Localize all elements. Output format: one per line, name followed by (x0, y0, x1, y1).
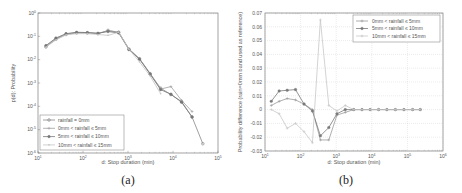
tick-label: 0 (259, 106, 262, 112)
tick-label: 105 (404, 153, 412, 159)
legend-entry: 0mm < rainfall ≤ 5mm (58, 125, 106, 131)
chart-a-xlabel: d: Stop duration (min) (102, 159, 155, 165)
chart-b-caption: (b) (339, 173, 353, 187)
legend-entry: 10mm < rainfall ≤ 15mm (372, 33, 426, 39)
chart-b-xlabel: d: Stop duration (min) (328, 159, 381, 165)
figure: 10110210310410510010-110-210-310-410-510… (0, 0, 462, 193)
legend-entry: 10mm < rainfall ≤ 15mm (58, 142, 112, 148)
tick-label: 105 (214, 155, 222, 161)
tick-label: 100 (28, 10, 36, 16)
tick-label: 10-3 (27, 80, 36, 86)
tick-label: 102 (79, 155, 87, 161)
tick-label: 104 (169, 155, 177, 161)
tick-label: -0.02 (251, 134, 263, 140)
tick-label: 101 (261, 153, 269, 159)
tick-label: 0.07 (252, 10, 262, 16)
tick-label: 10-2 (27, 56, 36, 62)
chart-a-caption: (a) (121, 173, 134, 187)
tick-label: 0.05 (252, 37, 262, 43)
chart-a: 10110210310410510010-110-210-310-410-510… (27, 10, 221, 161)
chart-b: 1011021031041051060.070.060.050.040.030.… (251, 10, 447, 159)
tick-label: 0.02 (252, 79, 262, 85)
tick-label: 10-4 (27, 103, 36, 109)
legend-entry: 5mm < rainfall ≤ 10mm (372, 25, 423, 31)
tick-label: -0.03 (251, 148, 263, 154)
legend-entry: rainfall = 0mm (58, 117, 90, 123)
tick-label: 0.03 (252, 65, 262, 71)
tick-label: 0.04 (252, 51, 262, 57)
legend-entry: 5mm < rainfall ≤ 10mm (58, 133, 109, 139)
chart-b-ylabel: Probability difference (rain=0mm band us… (237, 12, 243, 153)
tick-label: 106 (439, 153, 447, 159)
tick-label: 0.06 (252, 24, 262, 30)
tick-label: 10-1 (27, 33, 36, 39)
chart-a-ylabel: p(d): Probability (10, 63, 16, 102)
legend-entry: 0mm < rainfall ≤ 5mm (372, 18, 420, 24)
tick-label: 102 (297, 153, 305, 159)
chart-a-legend: rainfall = 0mm0mm < rainfall ≤ 5mm5mm < … (40, 115, 124, 150)
chart-b-legend: 0mm < rainfall ≤ 5mm5mm < rainfall ≤ 10m… (353, 15, 440, 42)
tick-label: -0.01 (251, 120, 263, 126)
tick-label: 101 (34, 155, 42, 161)
tick-label: 10-5 (27, 126, 36, 132)
tick-label: 0.01 (252, 93, 262, 99)
